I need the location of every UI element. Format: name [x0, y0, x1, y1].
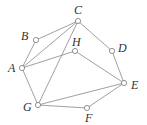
node-label-A: A — [7, 61, 16, 75]
node-label-F: F — [84, 111, 93, 125]
graph-diagram: ABCDEFGH — [0, 0, 147, 125]
node-label-G: G — [23, 100, 32, 114]
node-G — [35, 102, 40, 107]
edge-HE — [75, 51, 124, 83]
node-label-H: H — [71, 35, 82, 49]
node-label-C: C — [74, 3, 83, 17]
node-label-B: B — [21, 29, 29, 43]
node-E — [121, 80, 126, 85]
edge-GF — [38, 105, 87, 108]
node-D — [109, 48, 114, 53]
edge-CD — [78, 21, 112, 51]
edge-AC — [22, 21, 78, 68]
node-A — [19, 65, 24, 70]
edge-GE — [38, 83, 124, 105]
node-C — [75, 18, 80, 23]
edge-AH — [22, 51, 75, 68]
node-F — [84, 105, 89, 110]
node-label-D: D — [117, 41, 127, 55]
edge-FE — [87, 83, 124, 108]
edge-DE — [112, 51, 124, 83]
node-H — [72, 48, 77, 53]
node-B — [33, 37, 38, 42]
edge-CG — [38, 21, 78, 105]
node-label-E: E — [130, 78, 139, 92]
